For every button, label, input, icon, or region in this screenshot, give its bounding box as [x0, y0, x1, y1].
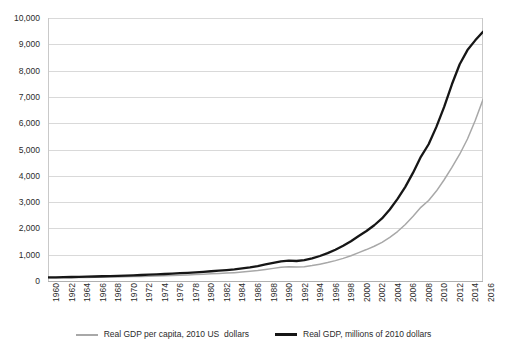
x-tick-label: 1992 — [301, 283, 310, 302]
x-tick-label: 1996 — [332, 283, 341, 302]
x-tick-label: 1988 — [270, 283, 279, 302]
x-tick-label: 1994 — [316, 283, 325, 302]
y-tick-label: 0 — [0, 277, 40, 286]
x-tick-label: 2016 — [487, 283, 496, 302]
y-tick-label: 6,000 — [0, 119, 40, 128]
x-tick-label: 1998 — [347, 283, 356, 302]
series-layer — [48, 18, 483, 281]
legend-label: Real GDP per capita, 2010 US dollars — [104, 330, 249, 339]
x-axis: 1960196219641966196819701972197419761978… — [48, 283, 483, 323]
legend-label: Real GDP, millions of 2010 dollars — [303, 330, 431, 339]
x-tick-label: 2006 — [409, 283, 418, 302]
legend-swatch-icon — [76, 334, 98, 336]
x-tick-label: 2008 — [425, 283, 434, 302]
x-tick-label: 2014 — [471, 283, 480, 302]
x-tick-label: 1972 — [145, 283, 154, 302]
y-tick-label: 4,000 — [0, 172, 40, 181]
x-tick-label: 1960 — [52, 283, 61, 302]
x-tick-label: 2004 — [394, 283, 403, 302]
legend-swatch-icon — [275, 333, 297, 336]
y-tick-label: 2,000 — [0, 224, 40, 233]
y-tick-label: 10,000 — [0, 14, 40, 23]
y-tick-label: 1,000 — [0, 251, 40, 260]
x-tick-label: 1986 — [254, 283, 263, 302]
y-tick-label: 5,000 — [0, 146, 40, 155]
series-line — [48, 32, 483, 278]
y-tick-label: 8,000 — [0, 67, 40, 76]
x-tick-label: 1980 — [207, 283, 216, 302]
series-line — [48, 100, 483, 278]
legend-entry[interactable]: Real GDP per capita, 2010 US dollars — [76, 330, 249, 339]
y-tick-label: 7,000 — [0, 93, 40, 102]
x-tick-label: 1976 — [176, 283, 185, 302]
x-tick-label: 1974 — [161, 283, 170, 302]
x-tick-label: 2012 — [456, 283, 465, 302]
chart-legend: Real GDP per capita, 2010 US dollarsReal… — [0, 326, 507, 343]
x-tick-label: 2002 — [378, 283, 387, 302]
y-axis: 10,0009,0008,0007,0006,0005,0004,0003,00… — [0, 18, 44, 281]
legend-entry[interactable]: Real GDP, millions of 2010 dollars — [275, 330, 431, 339]
x-tick-label: 1982 — [223, 283, 232, 302]
x-tick-label: 1962 — [68, 283, 77, 302]
x-tick-label: 1978 — [192, 283, 201, 302]
x-tick-label: 1970 — [130, 283, 139, 302]
y-tick-label: 9,000 — [0, 40, 40, 49]
x-tick-label: 2010 — [440, 283, 449, 302]
y-tick-label: 3,000 — [0, 198, 40, 207]
x-tick-label: 1964 — [83, 283, 92, 302]
gdp-line-chart: 10,0009,0008,0007,0006,0005,0004,0003,00… — [0, 0, 507, 343]
x-tick-label: 1968 — [114, 283, 123, 302]
x-tick-label: 2000 — [363, 283, 372, 302]
x-tick-label: 1966 — [99, 283, 108, 302]
x-tick-label: 1984 — [238, 283, 247, 302]
plot-area — [48, 18, 483, 281]
gridline — [48, 281, 483, 282]
x-tick-label: 1990 — [285, 283, 294, 302]
